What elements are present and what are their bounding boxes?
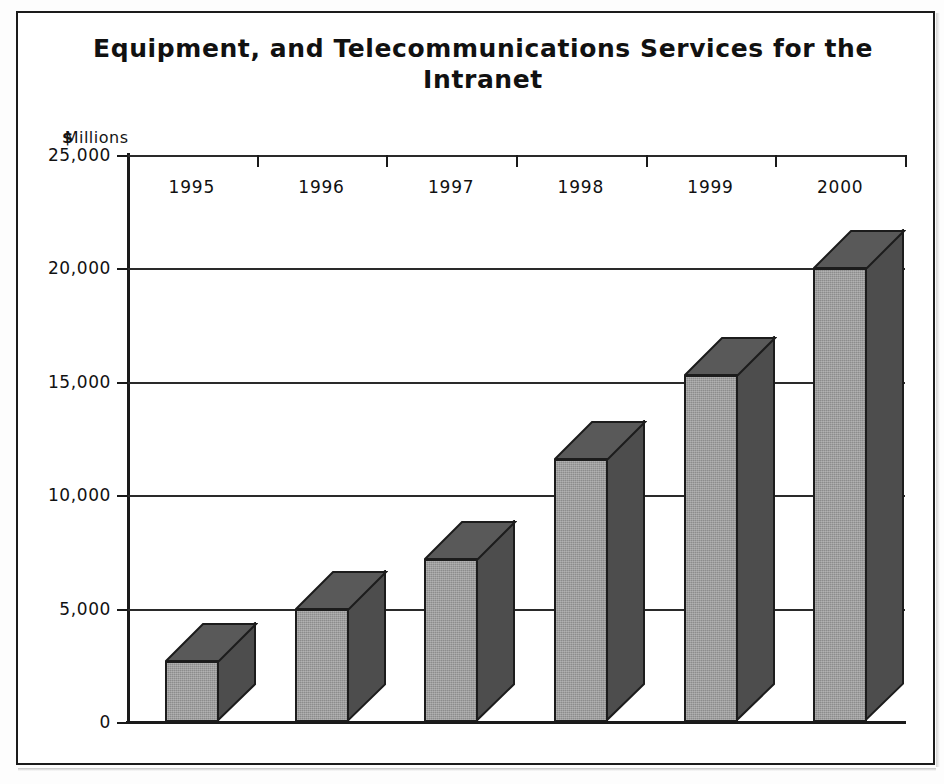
x-tick-label-1995: 1995 [169,177,215,197]
y-tick-label-10000: 10,000 [48,485,111,505]
y-tick-label-5000: 5,000 [59,599,111,619]
x-tick-1998 [646,155,648,167]
bar-top-outline [295,571,388,611]
bar-1995 [165,624,256,722]
x-tick-label-1997: 1997 [428,177,474,197]
bar-front-face [424,559,478,722]
x-tick-label-1998: 1998 [558,177,604,197]
gridline-15000 [127,382,905,384]
bar-front-face [813,268,867,722]
bar-top-outline [554,421,647,461]
y-tick-label-15000: 15,000 [48,372,111,392]
bar-1999 [684,338,775,722]
scan-edge-shadow-bottom [18,768,936,771]
y-tick-15000 [117,382,128,384]
y-tick-20000 [117,268,128,270]
bar-top-outline [684,337,777,377]
y-tick-label-25000: 25,000 [48,145,111,165]
bar-1997 [424,522,515,722]
y-tick-25000 [117,155,128,157]
bar-top-outline [424,521,517,561]
x-tick-label-2000: 2000 [817,177,863,197]
x-tick-label-1996: 1996 [298,177,344,197]
x-tick-1997 [516,155,518,167]
bar-top-outline [165,623,258,663]
scan-edge-shadow-right [936,13,940,767]
figure-page: Equipment, and Telecommunications Servic… [0,0,944,784]
bar-front-face [295,609,349,722]
bar-front-face [165,661,219,722]
bar-2000 [813,231,904,722]
bar-front-face [554,459,608,722]
gridline-10000 [127,495,905,497]
x-tick-2000 [905,155,907,167]
bar-top-outline [813,230,906,270]
bar-front-face [684,375,738,722]
bar-side-face [736,336,776,722]
x-tick-1995 [257,155,259,167]
x-tick-1999 [775,155,777,167]
chart-title: Equipment, and Telecommunications Servic… [88,33,878,95]
x-tick-1996 [386,155,388,167]
y-tick-label-20000: 20,000 [48,258,111,278]
bar-1998 [554,422,645,722]
x-tick-label-1999: 1999 [687,177,733,197]
bar-1996 [295,572,386,722]
y-tick-label-0: 0 [100,712,111,732]
gridline-20000 [127,268,905,270]
bar-side-face [606,420,646,722]
y-tick-5000 [117,609,128,611]
plot-area: 05,00010,00015,00020,00025,000 199519961… [127,155,905,722]
y-tick-0 [117,722,128,724]
bar-side-face [865,229,905,722]
y-tick-10000 [117,495,128,497]
